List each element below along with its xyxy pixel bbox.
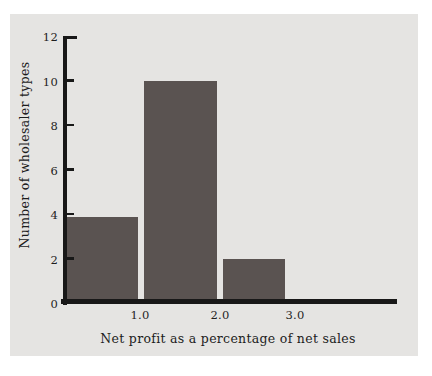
x-axis-line [61, 299, 397, 304]
histogram-bar-1 [66, 217, 138, 303]
x-tick-label-3.0: 3.0 [285, 308, 304, 322]
x-tick-label-2.0: 2.0 [210, 308, 229, 322]
y-tick-mark-2 [67, 257, 74, 260]
y-tick-label-6: 6 [50, 164, 58, 178]
y-tick-mark-4 [67, 213, 74, 216]
y-tick-label-10: 10 [43, 75, 58, 89]
y-tick-mark-10 [67, 79, 74, 82]
y-tick-label-8: 8 [50, 119, 58, 133]
x-axis-title: Net profit as a percentage of net sales [100, 331, 355, 346]
x-tick-label-1.0: 1.0 [130, 308, 149, 322]
y-tick-label-4: 4 [50, 208, 58, 222]
histogram-bar-3 [223, 259, 285, 304]
y-tick-mark-6 [67, 168, 74, 171]
y-tick-mark-8 [67, 124, 74, 127]
y-tick-label-12: 12 [43, 30, 58, 44]
y-axis-title: Number of wholesaler types [17, 62, 32, 249]
figure-page: Number of wholesaler types Net profit as… [0, 0, 432, 376]
y-tick-label-2: 2 [50, 253, 58, 267]
y-tick-label-0: 0 [50, 297, 58, 311]
y-axis-top-cap [63, 36, 77, 39]
histogram-bar-2 [144, 81, 217, 304]
